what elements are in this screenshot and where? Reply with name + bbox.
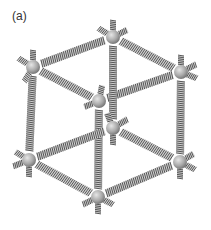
spring: [119, 129, 173, 161]
spring: [187, 62, 197, 72]
sphere-node-bottom-back: [106, 121, 120, 135]
spring: [178, 55, 184, 65]
sphere-node-top-back: [106, 30, 120, 44]
spring: [106, 162, 173, 197]
spring: [84, 101, 93, 110]
spring: [82, 197, 92, 207]
sphere-node-top-right: [174, 65, 188, 79]
spring: [95, 204, 101, 214]
sphere-node-bottom-right: [173, 155, 187, 169]
spring: [185, 163, 197, 172]
spring: [39, 68, 93, 100]
spring: [94, 110, 103, 189]
spring: [30, 50, 36, 60]
spring: [35, 161, 93, 196]
spheres-group: [22, 30, 188, 204]
spring: [13, 160, 23, 169]
sphere-node-top-front: [92, 94, 106, 108]
spring: [110, 20, 116, 30]
spring: [109, 46, 117, 119]
spring: [186, 72, 197, 81]
spring: [103, 198, 115, 207]
spring: [119, 28, 128, 37]
spring: [177, 169, 183, 179]
spring: [25, 76, 36, 151]
spring: [118, 117, 128, 127]
spring-lattice-diagram: [0, 0, 211, 230]
spring: [26, 167, 32, 177]
sphere-node-bottom-left: [22, 153, 36, 167]
spring-stubs-group: [13, 20, 198, 214]
spring: [119, 38, 175, 71]
sphere-node-bottom-front: [91, 190, 105, 204]
spring: [110, 135, 116, 145]
spring: [176, 81, 185, 154]
sphere-node-top-left: [26, 60, 40, 74]
spring: [41, 37, 105, 68]
springs-group: [25, 37, 184, 198]
spring: [98, 85, 105, 94]
